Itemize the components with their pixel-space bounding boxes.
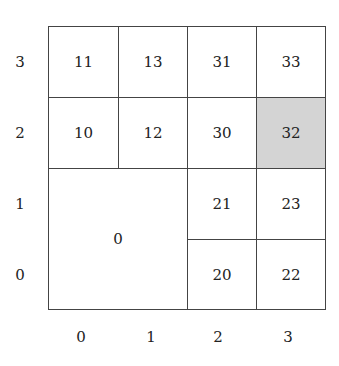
grid: 11 13 31 33 10 12 30 32 0 21 23 20 22: [48, 26, 326, 310]
x-axis-label-1: 1: [141, 328, 161, 346]
cell-22: 22: [256, 239, 326, 310]
cell-0: 0: [48, 168, 188, 310]
cell-23: 23: [256, 168, 326, 240]
y-axis-label-2: 2: [10, 124, 30, 142]
cell-11: 11: [48, 26, 119, 98]
cell-30: 30: [187, 97, 257, 169]
y-axis-label-0: 0: [10, 266, 30, 284]
cell-13: 13: [118, 26, 188, 98]
cell-12: 12: [118, 97, 188, 169]
x-axis-label-2: 2: [208, 328, 228, 346]
cell-32-highlighted: 32: [256, 97, 326, 169]
y-axis-label-3: 3: [10, 53, 30, 71]
y-axis-label-1: 1: [10, 195, 30, 213]
cell-21: 21: [187, 168, 257, 240]
cell-33: 33: [256, 26, 326, 98]
cell-20: 20: [187, 239, 257, 310]
cell-31: 31: [187, 26, 257, 98]
x-axis-label-3: 3: [278, 328, 298, 346]
cell-10: 10: [48, 97, 119, 169]
x-axis-label-0: 0: [71, 328, 91, 346]
